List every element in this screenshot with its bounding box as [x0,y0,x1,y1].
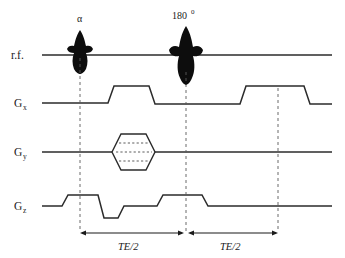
rf-refocus-pulse-shape [169,26,203,85]
channel-label-gz-subscript: z [23,206,27,215]
te-half-first-label: TE/2 [118,241,139,252]
te-half-second-arrowhead-left [188,231,194,236]
rf-refocus-pulse-label: 180 [172,10,187,21]
te-half-first-arrowhead-left [80,231,86,236]
channel-label-gy-subscript: y [23,152,27,161]
te-half-first-arrowhead-right [178,231,184,236]
channel-label-rf: r.f. [11,49,24,61]
gx-waveform-group [42,86,332,104]
gz-waveform-group [42,195,332,218]
rf-alpha-pulse-label: α [77,13,83,24]
channel-label-group: r.f. G x G y G z [11,49,27,215]
gy-waveform-group [112,134,155,170]
gz-waveform [42,195,332,218]
te-half-second-arrowhead-right [272,231,278,236]
pulse-sequence-diagram: r.f. G x G y G z α 180 0 TE/2 TE/2 [0,0,345,258]
timing-arrow-group [80,231,278,236]
timing-label-group: TE/2 TE/2 [118,241,241,252]
channel-label-gx-subscript: x [23,103,27,112]
channel-label-gz: G [14,200,22,212]
gx-waveform [42,86,332,104]
rf-alpha-pulse-shape [67,30,93,74]
pulse-annotation-group: α 180 0 [77,8,195,24]
channel-label-gy: G [14,146,22,158]
channel-label-gx: G [14,97,22,109]
rf-refocus-pulse-label-superscript: 0 [191,8,195,16]
te-half-second-label: TE/2 [220,241,241,252]
pulse-sequence-canvas: r.f. G x G y G z α 180 0 TE/2 TE/2 [0,0,345,258]
